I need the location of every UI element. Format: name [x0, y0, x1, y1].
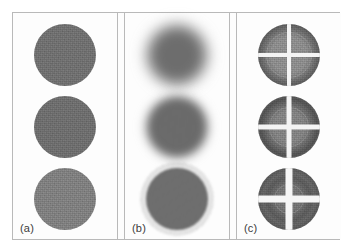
disk-b-1-body — [147, 97, 207, 157]
grain-overlay — [34, 168, 96, 230]
panel-label-b: (b) — [132, 223, 146, 234]
disk-c-0 — [258, 24, 320, 86]
grain-overlay — [34, 96, 96, 158]
grain-overlay — [140, 162, 214, 236]
disk-c-0-body — [258, 24, 320, 86]
panel-c-cell-1 — [237, 91, 341, 163]
grain-overlay — [34, 24, 96, 86]
disk-a-0 — [34, 24, 96, 86]
panel-label-c: (c) — [244, 223, 257, 234]
disk-a-2 — [34, 168, 96, 230]
disk-b-2 — [146, 168, 208, 230]
panel-b-cell-1 — [125, 91, 229, 163]
figure-frame: (a) — [12, 12, 340, 240]
disk-a-1 — [34, 96, 96, 158]
panel-c-cell-0 — [237, 19, 341, 91]
disk-b-1 — [147, 97, 207, 157]
disk-c-2-body — [258, 168, 320, 230]
disk-c-2 — [258, 168, 320, 230]
disk-a-1-body — [34, 96, 96, 158]
panel-label-a: (a) — [20, 223, 34, 234]
disk-a-2-body — [34, 168, 96, 230]
panel-b-cell-0 — [125, 19, 229, 91]
disk-b-0 — [148, 26, 206, 84]
grain-overlay — [141, 91, 213, 163]
figure-root: (a) — [0, 0, 352, 252]
panel-divider-b-right — [229, 13, 230, 239]
cross-artifact-horizontal — [258, 125, 320, 130]
disk-a-0-body — [34, 24, 96, 86]
disk-c-1 — [258, 96, 320, 158]
panel-a: (a) — [13, 13, 117, 239]
panel-a-cell-1 — [13, 91, 117, 163]
panel-b: (b) — [125, 13, 229, 239]
panel-divider-a-right — [117, 13, 118, 239]
cross-artifact-horizontal — [258, 196, 320, 203]
panel-a-cell-0 — [13, 19, 117, 91]
disk-b-0-body — [148, 26, 206, 84]
disk-c-1-body — [258, 96, 320, 158]
panel-c: (c) — [237, 13, 341, 239]
disk-b-2-body — [146, 168, 208, 230]
grain-overlay — [142, 20, 212, 90]
cross-artifact-horizontal — [258, 53, 320, 57]
